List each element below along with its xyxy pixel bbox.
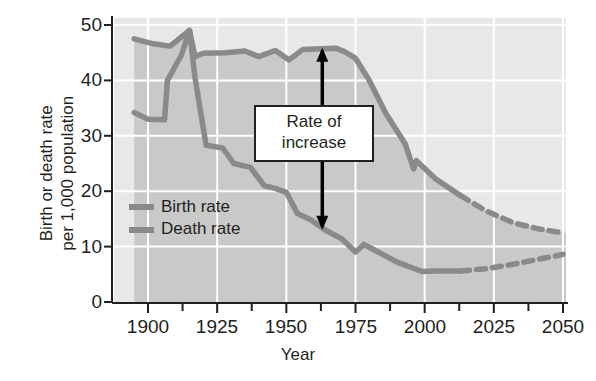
annotation-rate-of-increase: Rate of increase	[254, 105, 374, 162]
legend-item-death-rate: Death rate	[129, 218, 240, 240]
annotation-line-1: Rate of	[258, 112, 370, 133]
plot-area	[0, 0, 596, 381]
legend-label-death-rate: Death rate	[161, 218, 240, 240]
legend-swatch-death-rate	[129, 227, 154, 233]
legend-label-birth-rate: Birth rate	[161, 196, 230, 218]
legend-swatch-birth-rate	[129, 204, 154, 210]
legend: Birth rate Death rate	[129, 196, 240, 241]
legend-item-birth-rate: Birth rate	[129, 196, 240, 218]
annotation-line-2: increase	[258, 133, 370, 154]
chart-root: Birth or death rate per 1,000 population…	[0, 0, 596, 381]
